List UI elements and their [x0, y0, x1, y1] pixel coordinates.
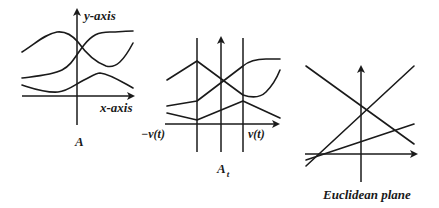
y-axis-label: y-axis — [82, 8, 116, 23]
panel-at-caption-sub: t — [227, 169, 230, 179]
right-boundary-label: v(t) — [248, 127, 265, 141]
panel-at: −v(t) v(t) At — [141, 38, 280, 179]
panel-a-caption: A — [74, 134, 84, 149]
figure-canvas: y-axis x-axis A −v(t) v(t) At Euclidean … — [0, 0, 439, 208]
curve-at-1 — [167, 61, 280, 97]
euclid-line-1 — [306, 66, 414, 144]
curve-at-2 — [167, 59, 280, 106]
panel-a: y-axis x-axis A — [22, 8, 133, 149]
panel-euclidean: Euclidean plane — [305, 66, 416, 202]
x-axis-label: x-axis — [99, 100, 133, 115]
panel-at-caption-main: A — [216, 161, 226, 176]
left-boundary-label: −v(t) — [141, 127, 165, 141]
panel-euclidean-caption: Euclidean plane — [322, 187, 411, 202]
euclid-line-2 — [306, 66, 414, 166]
panel-at-caption: At — [216, 161, 230, 179]
